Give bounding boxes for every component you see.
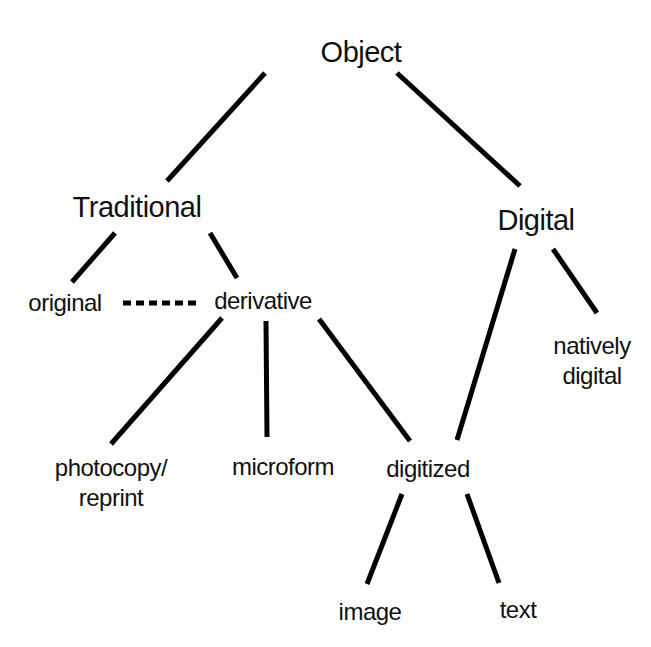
edge-digital-natively-digital bbox=[553, 249, 597, 313]
edge-derivative-digitized bbox=[319, 319, 410, 441]
node-traditional: Traditional bbox=[73, 189, 202, 225]
edge-digitized-image bbox=[367, 494, 402, 584]
node-digitized: digitized bbox=[386, 454, 470, 484]
tree-edges bbox=[0, 0, 651, 647]
node-text: text bbox=[500, 595, 537, 625]
edge-object-traditional bbox=[167, 73, 265, 181]
node-object: Object bbox=[321, 34, 402, 70]
node-image: image bbox=[339, 597, 402, 627]
node-natively-digital-line2: digital bbox=[553, 361, 630, 391]
edge-derivative-microform bbox=[266, 321, 267, 437]
edge-derivative-photocopy bbox=[111, 318, 222, 444]
node-digital: Digital bbox=[497, 202, 574, 238]
node-natively-digital: natively digital bbox=[553, 331, 630, 391]
edge-traditional-derivative bbox=[210, 233, 237, 278]
node-photocopy-line1: photocopy/ bbox=[55, 453, 167, 483]
node-original: original bbox=[28, 288, 101, 318]
node-derivative: derivative bbox=[214, 286, 312, 316]
node-microform: microform bbox=[232, 452, 334, 482]
edge-digital-digitized bbox=[457, 249, 515, 440]
edge-traditional-original bbox=[72, 233, 115, 282]
node-photocopy-line2: reprint bbox=[55, 483, 167, 513]
node-natively-digital-line1: natively bbox=[553, 331, 630, 361]
edge-digitized-text bbox=[467, 494, 499, 583]
edge-object-digital bbox=[397, 73, 520, 186]
node-photocopy-reprint: photocopy/ reprint bbox=[55, 453, 167, 513]
